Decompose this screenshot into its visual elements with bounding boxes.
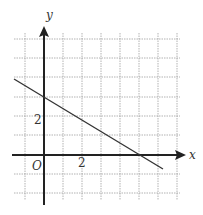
x-axis-label: x <box>189 148 196 162</box>
x-tick-label-2: 2 <box>78 156 86 170</box>
origin-label: O <box>32 159 42 173</box>
y-axis-label: y <box>45 8 53 22</box>
coordinate-plane: y x O 2 2 <box>0 0 203 215</box>
y-tick-label-2: 2 <box>34 113 42 127</box>
